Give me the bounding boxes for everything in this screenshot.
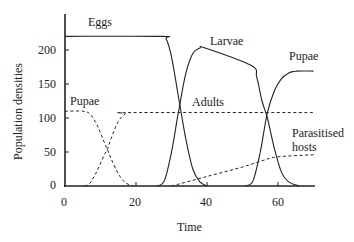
label-pupae-left: Pupae bbox=[70, 94, 99, 109]
x-tick-20: 20 bbox=[129, 195, 141, 210]
y-tick-200: 200 bbox=[38, 43, 56, 58]
line-pupae-dashed bbox=[65, 111, 132, 186]
y-axis-label: Population densities bbox=[11, 52, 26, 172]
label-parasitised: Parasitised bbox=[292, 126, 344, 141]
label-pupae-right: Pupae bbox=[289, 49, 318, 64]
y-tick-50: 50 bbox=[44, 145, 56, 160]
line-adults bbox=[85, 112, 314, 186]
series-lines bbox=[65, 36, 314, 186]
label-larvae: Larvae bbox=[210, 34, 243, 49]
label-hosts: hosts bbox=[292, 140, 317, 155]
x-tick-0: 0 bbox=[61, 195, 67, 210]
y-tick-100: 100 bbox=[38, 111, 56, 126]
label-eggs: Eggs bbox=[88, 15, 112, 30]
y-tick-0: 0 bbox=[50, 178, 56, 193]
x-axis-label: Time bbox=[177, 220, 202, 235]
line-larvae bbox=[157, 46, 299, 186]
line-eggs bbox=[65, 36, 207, 186]
x-tick-40: 40 bbox=[200, 195, 212, 210]
x-tick-60: 60 bbox=[272, 195, 284, 210]
label-adults: Adults bbox=[192, 95, 224, 110]
y-tick-150: 150 bbox=[38, 77, 56, 92]
